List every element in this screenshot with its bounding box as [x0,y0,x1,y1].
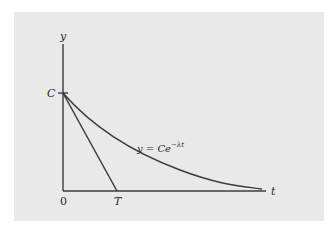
curve-equation-exponent: −λt [171,141,184,149]
origin-label: 0 [60,195,67,208]
y-axis-label: y [59,30,67,43]
tangent-line [63,93,117,191]
decay-diagram: y t 0 C T y = Ce−λt [0,0,336,235]
exponential-curve [63,93,262,189]
curve-equation-label: y = Ce−λt [136,141,184,154]
c-label: C [47,87,56,100]
t-intercept-label: T [114,195,123,208]
curve-equation-base: y = Ce [136,143,171,154]
t-axis-label: t [271,185,276,198]
